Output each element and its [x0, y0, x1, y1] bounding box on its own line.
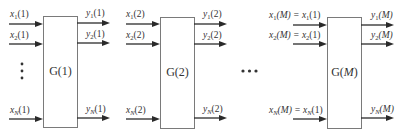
arrow-right-icon: [219, 21, 227, 27]
arrow-right-icon: [102, 20, 110, 26]
input-x1-1: x1(1): [9, 9, 43, 27]
svg-text:xN(2): xN(2): [125, 105, 146, 116]
svg-text:y1(2): y1(2): [202, 9, 222, 20]
arrow-right-icon: [319, 116, 327, 122]
svg-text:xN(1): xN(1): [9, 105, 30, 116]
input-x2-1: x2(1): [9, 30, 43, 47]
output-yN-M: yN(M): [361, 104, 394, 121]
input-xN-2: xN(2): [125, 105, 160, 122]
svg-text:y2(M): y2(M): [370, 30, 393, 41]
input-xN-1: xN(1): [9, 105, 43, 122]
svg-text:x2(1): x2(1): [9, 30, 29, 41]
svg-text:y2(1): y2(1): [85, 29, 105, 40]
arrow-right-icon: [319, 22, 327, 28]
svg-text:yN(2): yN(2): [202, 104, 223, 115]
output-yN-2: yN(2): [194, 104, 227, 121]
arrow-right-icon: [219, 41, 227, 47]
svg-text:xN(M) = xN(1): xN(M) = xN(1): [268, 105, 323, 116]
input-x2-2: x2(2): [125, 30, 160, 47]
output-y1-1: y1(1): [77, 8, 110, 26]
svg-text:x1(1): x1(1): [9, 9, 29, 20]
block-gM-label: G(M): [331, 65, 358, 79]
output-y2-M: y2(M): [361, 30, 394, 47]
svg-text:yN(1): yN(1): [85, 104, 106, 115]
cascade-block-diagram: G(1) x1(1) x2(1) xN(1) y1(1): [0, 0, 406, 137]
svg-text:x2(2): x2(2): [125, 30, 145, 41]
input-xN-M: xN(M) = xN(1): [268, 105, 327, 122]
block-g2-label: G(2): [166, 65, 189, 79]
svg-text:x1(M) = x1(1): x1(M) = x1(1): [268, 10, 320, 21]
block-g1: G(1) x1(1) x2(1) xN(1) y1(1): [9, 8, 110, 128]
svg-text:yN(M): yN(M): [370, 104, 394, 115]
output-yN-1: yN(1): [77, 104, 110, 121]
output-y1-2: y1(2): [194, 9, 227, 27]
block-g1-label: G(1): [49, 64, 72, 78]
svg-text:y1(M): y1(M): [370, 10, 393, 21]
output-y2-2: y2(2): [194, 30, 227, 47]
arrow-right-icon: [319, 41, 327, 47]
output-y2-1: y2(1): [77, 29, 110, 46]
arrow-right-icon: [102, 40, 110, 46]
horizontal-ellipsis: [241, 69, 257, 72]
svg-text:x1(2): x1(2): [125, 9, 145, 20]
arrow-right-icon: [35, 41, 43, 47]
arrow-right-icon: [219, 115, 227, 121]
vertical-ellipsis: [21, 63, 24, 80]
output-y1-M: y1(M): [361, 10, 394, 28]
svg-text:x2(M) = x2(1): x2(M) = x2(1): [268, 30, 320, 41]
block-gM: G(M) x1(M) = x1(1) x2(M) = x2(1) xN(M) =…: [268, 10, 394, 129]
arrow-right-icon: [386, 41, 394, 47]
arrow-right-icon: [152, 21, 160, 27]
input-x1-2: x1(2): [125, 9, 160, 27]
arrow-right-icon: [35, 21, 43, 27]
input-x2-M: x2(M) = x2(1): [268, 30, 327, 47]
arrow-right-icon: [386, 22, 394, 28]
arrow-right-icon: [152, 116, 160, 122]
arrow-right-icon: [152, 41, 160, 47]
arrow-right-icon: [102, 115, 110, 121]
block-g2: G(2) x1(2) x2(2) xN(2) y1(2) y2(2): [125, 9, 227, 129]
svg-text:y1(1): y1(1): [85, 8, 105, 19]
svg-text:y2(2): y2(2): [202, 30, 222, 41]
input-x1-M: x1(M) = x1(1): [268, 10, 327, 28]
arrow-right-icon: [35, 116, 43, 122]
arrow-right-icon: [386, 115, 394, 121]
